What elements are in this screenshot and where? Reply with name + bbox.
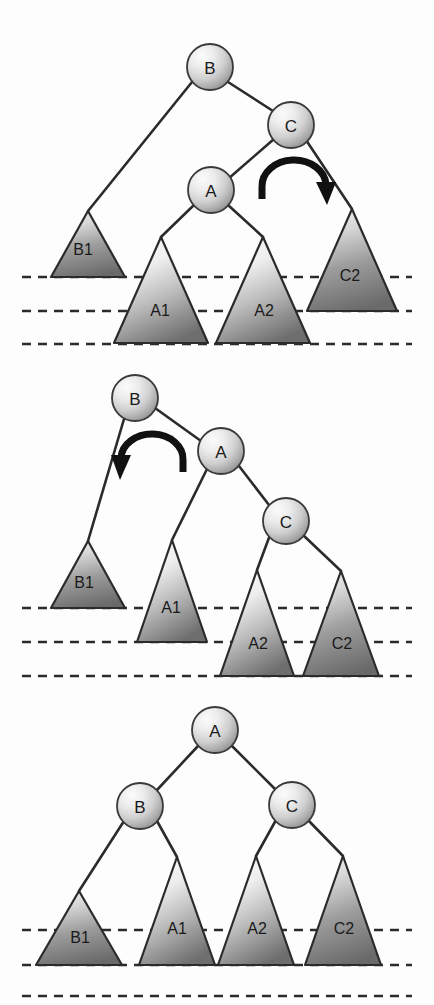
tree-node-label-b-panel3: B [134,798,145,817]
tree-node-label-c-panel1: C [285,117,297,136]
figure-canvas: B1A1A2C2B1A1A2C2B1A1A2C2 BCABACABC [0,0,434,1005]
tree-node-label-a-panel3: A [209,722,221,741]
subtree-label-b1-panel1: B1 [73,241,93,258]
subtree-label-a2-panel1: A2 [254,302,274,319]
tree-node-label-a-panel2: A [215,443,227,462]
subtree-label-b1-panel2: B1 [74,574,94,591]
subtree-label-c2-panel3: C2 [334,920,355,937]
subtree-label-a1-panel3: A1 [167,920,187,937]
subtree-label-a2-panel3: A2 [247,920,267,937]
subtree-label-c2-panel2: C2 [332,635,353,652]
subtree-label-a1-panel1: A1 [150,302,170,319]
figure-background [0,0,434,1005]
tree-node-label-b-panel2: B [129,390,140,409]
avl-rotation-figure: B1A1A2C2B1A1A2C2B1A1A2C2 BCABACABC [0,0,434,1005]
tree-node-label-b-panel1: B [204,59,215,78]
subtree-label-a1-panel2: A1 [161,599,181,616]
tree-node-label-c-panel2: C [280,513,292,532]
subtree-label-b1-panel3: B1 [70,929,90,946]
tree-node-label-c-panel3: C [286,797,298,816]
tree-node-label-a-panel1: A [205,182,217,201]
subtree-label-a2-panel2: A2 [248,635,268,652]
subtree-label-c2-panel1: C2 [340,267,361,284]
